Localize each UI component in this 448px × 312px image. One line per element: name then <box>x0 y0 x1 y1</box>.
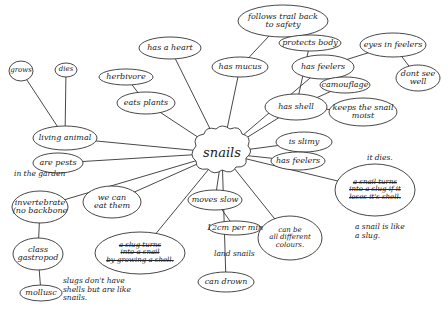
node-we-can-eat-them[interactable]: we caneat them <box>94 194 130 211</box>
node-dies[interactable]: dies <box>59 66 73 73</box>
node-has-mucus[interactable]: has mucus <box>218 63 261 71</box>
node-class-gastropod[interactable]: classgastropod <box>18 246 59 263</box>
node-are-pests[interactable]: are pests <box>39 159 76 167</box>
node-grows[interactable]: grows <box>10 67 32 74</box>
node-dont-see-well[interactable]: dont seewell <box>401 70 435 87</box>
edge-snails-can-drown <box>222 153 226 282</box>
central-topic-snails[interactable]: snails <box>203 146 241 160</box>
node-has-feelers-2[interactable]: has feelers <box>276 157 320 165</box>
node-mollusc[interactable]: mollusc <box>25 289 56 297</box>
node-has-shell[interactable]: has shell <box>278 103 314 111</box>
node-can-drown[interactable]: can drown <box>205 278 248 286</box>
node-12cm-per-min[interactable]: 12cm per min <box>207 224 263 232</box>
node-camouflage[interactable]: camouflage <box>322 81 369 89</box>
node-protects-body[interactable]: protects body <box>282 39 338 47</box>
node-is-slimy[interactable]: is slimy <box>289 138 320 146</box>
node-snail-turns-slug[interactable]: a snail turnsinto a slug if itloses it's… <box>349 179 401 201</box>
annotation-snail-like-slug: a snail is likea slug. <box>355 223 405 240</box>
node-keeps-moist[interactable]: keeps the snailmoist <box>333 104 394 121</box>
annotation-it-dies: it dies. <box>367 154 393 163</box>
node-follows-trail[interactable]: follows trail backto safety <box>248 13 318 30</box>
node-can-be-colours[interactable]: can beall differentcolours. <box>269 227 311 249</box>
node-has-a-heart[interactable]: has a heart <box>147 44 193 52</box>
annotation-slugs-no-shells: slugs don't haveshells but are likesnail… <box>63 277 131 303</box>
node-eats-plants[interactable]: eats plants <box>124 99 168 107</box>
node-has-feelers-top[interactable]: has feelers <box>301 63 345 71</box>
node-eyes-in-feelers[interactable]: eyes in feelers <box>364 41 423 49</box>
annotation-in-the-garden: in the garden <box>14 170 65 179</box>
node-slug-turns-snail[interactable]: a slug turnsinto a snailby growing a she… <box>106 242 174 264</box>
node-moves-slow[interactable]: moves slow <box>192 196 239 204</box>
node-living-animal[interactable]: living animal <box>39 134 91 142</box>
node-invertebrate[interactable]: invertebrate(no backbone <box>13 199 68 216</box>
annotation-land-snails: land snails <box>214 250 255 259</box>
node-herbivore[interactable]: herbivore <box>106 73 145 81</box>
